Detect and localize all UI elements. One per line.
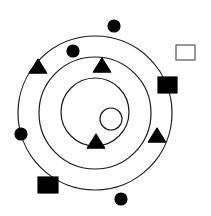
filled-square-right <box>158 77 177 93</box>
filled-triangle-right <box>148 128 166 142</box>
filled-triangle-inner-bottom <box>87 134 105 148</box>
middle-ring <box>39 57 151 169</box>
filled-square-bottom-left <box>38 177 58 193</box>
filled-triangle-top <box>93 58 111 72</box>
filled-circle-upper-left <box>67 45 79 57</box>
filled-circle-left <box>15 128 27 140</box>
filled-triangle-upper-left <box>29 59 47 73</box>
open-circle-center <box>100 108 122 130</box>
concentric-rings-diagram <box>0 0 211 216</box>
diagram-canvas <box>0 0 211 216</box>
filled-circle-top <box>108 20 120 32</box>
outer-ring <box>18 36 172 190</box>
filled-circle-bottom <box>115 193 127 205</box>
open-square-top-right <box>176 45 195 60</box>
